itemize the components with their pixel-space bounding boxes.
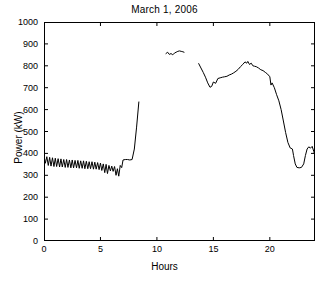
data-line-segment-1 (44, 102, 139, 176)
data-line-segment-2 (166, 51, 184, 55)
x-tick-label-5: 5 (98, 244, 103, 254)
x-tick-label-15: 15 (208, 244, 218, 254)
x-tick-label-0: 0 (41, 244, 46, 254)
data-series-lines (44, 22, 315, 241)
x-tick-label-20: 20 (265, 244, 275, 254)
x-tick-label-10: 10 (152, 244, 162, 254)
chart-figure: March 1, 2006 1000 900 800 700 600 500 4… (0, 0, 329, 283)
data-line-segment-3 (199, 61, 315, 167)
y-axis-title: Power (kW) (13, 78, 24, 198)
plot-area (44, 22, 315, 241)
x-axis-title: Hours (0, 261, 329, 272)
